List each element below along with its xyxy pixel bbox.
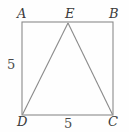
vertex-label-a: A (17, 7, 26, 20)
triangle-side-ec (68, 23, 113, 115)
square-abcd (22, 22, 113, 115)
side-length-bottom: 5 (64, 117, 72, 130)
triangle-side-de (23, 23, 69, 115)
vertex-label-b: B (109, 7, 119, 20)
vertex-label-c: C (108, 115, 118, 128)
side-length-left: 5 (7, 58, 15, 71)
vertex-label-d: D (17, 115, 27, 128)
geometry-figure: A E B D C 5 5 (0, 0, 129, 132)
vertex-label-e: E (65, 7, 75, 20)
